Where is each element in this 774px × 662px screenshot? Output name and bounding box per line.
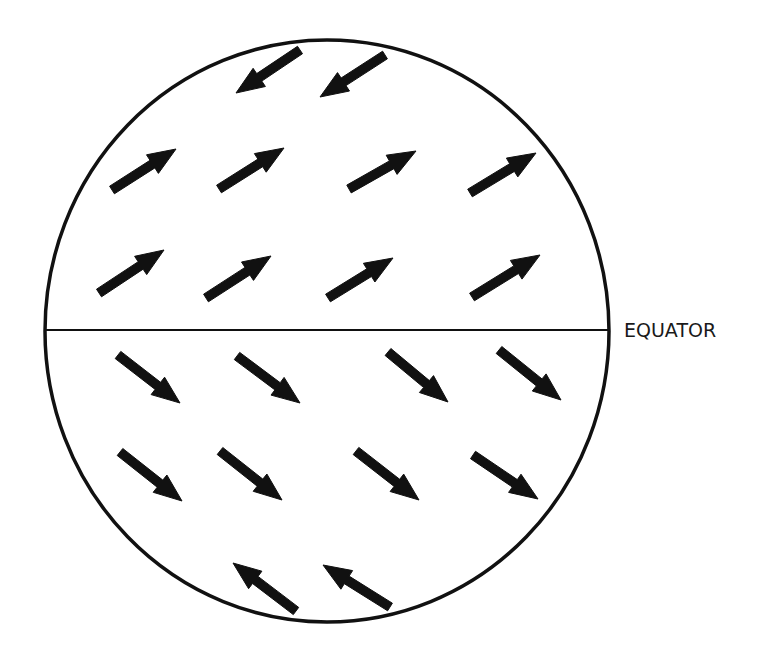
wind-arrow-up-right-icon	[468, 153, 536, 197]
wind-arrow-up-right-icon	[97, 250, 165, 297]
wind-arrow-up-right-icon	[347, 151, 416, 193]
wind-arrow-down-right-icon	[217, 448, 282, 501]
wind-arrow-up-right-icon	[470, 255, 540, 301]
wind-arrow-up-right-icon	[204, 256, 271, 302]
wind-arrow-up-right-icon	[217, 148, 284, 193]
wind-arrow-down-right-icon	[471, 451, 539, 499]
wind-arrow-down-right-icon	[385, 349, 448, 403]
wind-arrow-up-right-icon	[326, 258, 393, 302]
wind-arrow-up-right-icon	[110, 149, 176, 194]
wind-arrow-up-left-icon	[233, 563, 299, 615]
equator-label: EQUATOR	[624, 319, 716, 341]
wind-arrow-down-right-icon	[496, 347, 561, 401]
wind-arrow-down-left-icon	[320, 51, 387, 97]
wind-arrow-down-right-icon	[353, 447, 419, 500]
globe	[45, 40, 609, 622]
wind-arrow-down-right-icon	[234, 352, 300, 403]
wind-arrow-down-right-icon	[115, 351, 180, 403]
wind-arrow-down-right-icon	[117, 449, 182, 502]
wind-arrow-up-left-icon	[323, 565, 392, 611]
globe-wind-diagram: EQUATOR	[0, 0, 774, 662]
